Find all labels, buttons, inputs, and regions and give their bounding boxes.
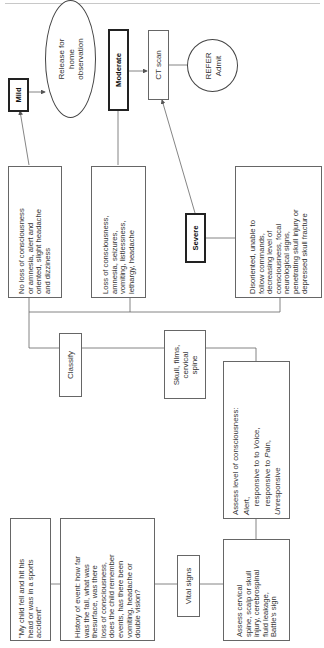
history-box: History of event: how far was the fall, … (60, 518, 155, 641)
assess-cervical-text: Assess cervical spine, scalp or skull in… (235, 543, 278, 637)
voice-prefix: responsive to to (251, 449, 260, 515)
assess-consciousness-text: Assess level of consciousness: Alert, re… (230, 365, 283, 515)
vital-signs-label: Vital signs (184, 568, 193, 604)
unresponsive-rest: nresponsive (272, 467, 281, 509)
voice-rest: oice, (251, 427, 260, 443)
severe-box: Severe (185, 213, 206, 263)
pain-initial: P (262, 453, 271, 458)
release-ellipse: Release for home observation (45, 0, 96, 118)
mild-box: Mild (8, 78, 29, 112)
skull-films-box: Skull, films, cervical spine (164, 330, 206, 399)
moderate-criteria-text: Loss of consciousness, amnesia, seizures… (101, 170, 135, 294)
mild-criteria-box: No loss of consciousness or amnesia, ale… (8, 166, 62, 298)
moderate-criteria-box: Loss of consciousness, amnesia, seizures… (91, 166, 146, 298)
ct-scan-box: CT scan (148, 30, 169, 100)
moderate-box: Moderate (108, 29, 129, 111)
loc-line1: Assess level of consciousness: (230, 408, 239, 515)
vital-signs-box: Vital signs (177, 555, 200, 617)
classify-box: Classify (59, 333, 82, 397)
unresponsive-initial: U (272, 509, 281, 515)
moderate-label: Moderate (114, 53, 123, 87)
complaint-box: "My child fell and hit his head or was i… (10, 518, 51, 641)
history-text: History of event: how far was the fall, … (73, 522, 142, 638)
mild-criteria-text: No loss of consciousness or amnesia, ale… (18, 170, 52, 294)
release-label: Release for home observation (56, 38, 85, 79)
complaint-text: "My child fell and hit his head or was i… (18, 522, 44, 638)
classify-label: Classify (66, 351, 75, 379)
alert-rest: lert, (241, 497, 250, 510)
assess-consciousness-box: Assess level of consciousness: Alert, re… (223, 361, 290, 519)
skull-films-label: Skull, films, cervical spine (172, 344, 199, 384)
refer-label: REFER Admit (203, 52, 222, 79)
refer-circle: REFER Admit (187, 39, 238, 92)
assess-cervical-box: Assess cervical spine, scalp or skull in… (223, 539, 290, 641)
severe-label: Severe (191, 226, 200, 251)
voice-initial: V (251, 444, 260, 449)
pain-prefix: responsive to (262, 458, 271, 515)
mild-label: Mild (14, 87, 23, 102)
alert-initial: A (241, 510, 250, 515)
ct-scan-label: CT scan (154, 50, 163, 80)
severe-criteria-box: Disoriented, unable to follow commands, … (235, 166, 322, 298)
severe-criteria-text: Disoriented, unable to follow commands, … (248, 170, 308, 294)
pain-rest: ain, (262, 440, 271, 453)
